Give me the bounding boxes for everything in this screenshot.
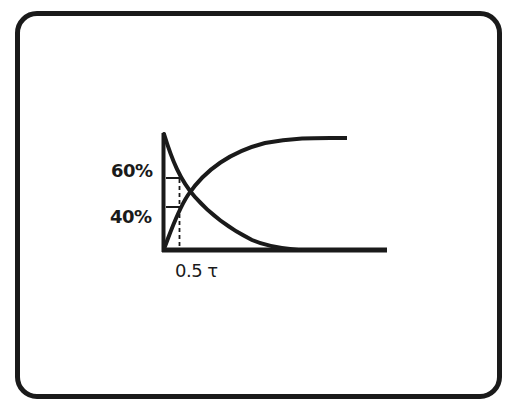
- rise-curve: [164, 138, 347, 249]
- x-label-0-5-tau: 0.5 τ: [175, 262, 218, 280]
- y-label-40: 40%: [110, 208, 152, 226]
- y-label-60: 60%: [111, 162, 153, 180]
- decay-curve: [164, 134, 300, 250]
- chart-plot: [0, 0, 508, 408]
